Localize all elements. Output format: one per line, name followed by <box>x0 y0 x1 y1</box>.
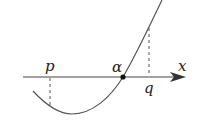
p-label: p <box>45 57 55 75</box>
x-axis-label: x <box>178 57 187 75</box>
alpha-label: α <box>112 58 122 76</box>
q-label: q <box>144 79 154 97</box>
diagram-canvas: p α q x <box>0 0 202 126</box>
